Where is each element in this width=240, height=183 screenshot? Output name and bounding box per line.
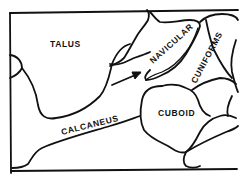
cuniform-right-edge (231, 40, 238, 92)
cuboid-outline (141, 86, 236, 153)
right-joint (227, 96, 232, 116)
label-navicular: NAVICULAR (148, 21, 195, 65)
cuboid-lower-joint (184, 152, 200, 168)
foot-bones-diagram: TALUS NAVICULAR CUNIFORMS CUBOID CALCANE… (0, 0, 240, 183)
cuboid-lower-right (186, 126, 238, 152)
talus-outline (22, 44, 130, 118)
label-cuboid: CUBOID (158, 108, 195, 118)
frame (10, 10, 238, 173)
left-bone-outline (10, 55, 22, 78)
label-talus: TALUS (50, 39, 81, 49)
joint-arrow-icon (112, 72, 141, 85)
